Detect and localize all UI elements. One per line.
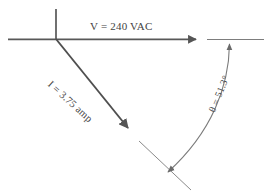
angle-arc xyxy=(168,44,230,172)
angle-terminal-segment xyxy=(139,141,191,190)
voltage-label: V = 240 VAC xyxy=(90,21,153,32)
phasor-diagram: V = 240 VAC I = 3.75 amp θ = 51.3° xyxy=(0,0,268,192)
